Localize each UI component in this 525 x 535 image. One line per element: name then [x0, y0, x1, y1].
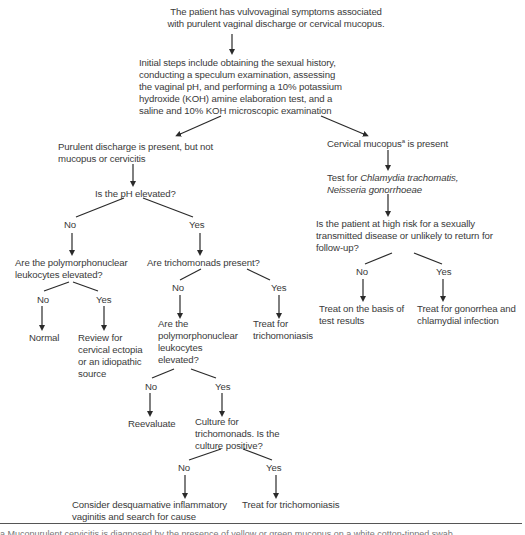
treat-gc-line: Treat for gonorrhea and — [417, 303, 516, 315]
treat-test-results-node: Treat on the basis of test results — [319, 303, 404, 327]
treat-trich-line: Treat for — [253, 318, 313, 330]
treat-trich-final-node: Treat for trichomoniasis — [242, 499, 339, 511]
normal-result-node: Normal — [29, 332, 59, 344]
risk-line: Is the patient at high risk for a sexual… — [316, 218, 493, 230]
culture-line: culture positive? — [195, 440, 279, 452]
treat-results-line: Treat on the basis of — [319, 303, 404, 315]
pmn2-question-node: Are the polymorphonuclear leukocytes ele… — [158, 318, 238, 366]
chlamydia-organism: Chlamydia trachomatis, — [360, 172, 458, 183]
culture-no-label: No — [178, 462, 190, 474]
treat-gc-line: chlamydial infection — [417, 315, 516, 327]
treat-trich-node: Treat for trichomoniasis — [253, 318, 313, 342]
pmn-no-label: No — [37, 294, 49, 306]
test-prefix: Test for — [327, 172, 360, 183]
neisseria-organism: Neisseria gonorrhoeae — [327, 184, 458, 196]
ph-yes-label: Yes — [189, 219, 204, 231]
start-node: The patient has vulvovaginal symptoms as… — [165, 6, 387, 30]
risk-yes-label: Yes — [436, 266, 451, 278]
pmn-yes-label: Yes — [96, 294, 111, 306]
desquamative-line: Consider desquamative inflammatory — [72, 499, 227, 511]
pmn2-yes-label: Yes — [215, 381, 230, 393]
culture-yes-label: Yes — [266, 462, 281, 474]
desquamative-node: Consider desquamative inflammatory vagin… — [72, 499, 227, 523]
test-line-1: Test for Chlamydia trachomatis, — [327, 172, 458, 184]
ph-no-label: No — [64, 219, 76, 231]
risk-no-label: No — [356, 266, 368, 278]
pmn-question-node: Are the polymorphonuclear leukocytes ele… — [15, 257, 128, 281]
culture-line: trichomonads. Is the — [195, 428, 279, 440]
risk-question-node: Is the patient at high risk for a sexual… — [316, 218, 493, 254]
review-line: Review for — [78, 332, 143, 344]
review-line: or an idiopathic — [78, 356, 143, 368]
initial-steps-line: hydroxide (KOH) amine elaboration test, … — [139, 93, 342, 105]
pmn2-line: leukocytes — [158, 342, 238, 354]
risk-line: follow-up? — [316, 242, 493, 254]
cervical-mucopus-rest: is present — [405, 138, 448, 149]
cervical-mucopus-node: Cervical mucopusa is present — [327, 138, 448, 150]
treat-trich-line: trichomoniasis — [253, 330, 313, 342]
pmn-line: Are the polymorphonuclear — [15, 257, 128, 269]
initial-steps-line: Initial steps include obtaining the sexu… — [139, 57, 342, 69]
pmn2-line: elevated? — [158, 354, 238, 366]
review-ectopia-node: Review for cervical ectopia or an idiopa… — [78, 332, 143, 380]
cervical-mucopus-text: Cervical mucopus — [327, 138, 402, 149]
pmn2-line: polymorphonuclear — [158, 330, 238, 342]
review-line: source — [78, 368, 143, 380]
treat-results-line: test results — [319, 315, 404, 327]
initial-steps-node: Initial steps include obtaining the sexu… — [139, 57, 342, 117]
trich-no-label: No — [172, 282, 184, 294]
footnote-clipped: a Mucopurulent cervicitis is diagnosed b… — [0, 529, 525, 535]
reevaluate-node: Reevaluate — [128, 418, 176, 430]
risk-line: transmitted disease or unlikely to retur… — [316, 230, 493, 242]
review-line: cervical ectopia — [78, 344, 143, 356]
culture-node: Culture for trichomonads. Is the culture… — [195, 416, 279, 452]
ph-question-node: Is the pH elevated? — [95, 188, 176, 200]
desquamative-line: vaginitis and search for cause — [72, 511, 227, 523]
test-chlamydia-node: Test for Chlamydia trachomatis, Neisseri… — [327, 172, 458, 196]
initial-steps-line: saline and 10% KOH microscopic examinati… — [139, 105, 342, 117]
treat-gonorrhea-node: Treat for gonorrhea and chlamydial infec… — [417, 303, 516, 327]
pmn2-line: Are the — [158, 318, 238, 330]
pmn-line: leukocytes elevated? — [15, 269, 128, 281]
purulent-line: mucopus or cervicitis — [58, 153, 213, 165]
footnote-divider — [0, 523, 522, 524]
purulent-line: Purulent discharge is present, but not — [58, 141, 213, 153]
trichomonads-question-node: Are trichomonads present? — [147, 257, 260, 269]
purulent-discharge-node: Purulent discharge is present, but not m… — [58, 141, 213, 165]
footnote-text: a Mucopurulent cervicitis is diagnosed b… — [0, 529, 525, 535]
culture-line: Culture for — [195, 416, 279, 428]
initial-steps-line: the vaginal pH, and performing a 10% pot… — [139, 81, 342, 93]
trich-yes-label: Yes — [271, 282, 286, 294]
pmn2-no-label: No — [145, 381, 157, 393]
initial-steps-line: conducting a speculum examination, asses… — [139, 69, 342, 81]
